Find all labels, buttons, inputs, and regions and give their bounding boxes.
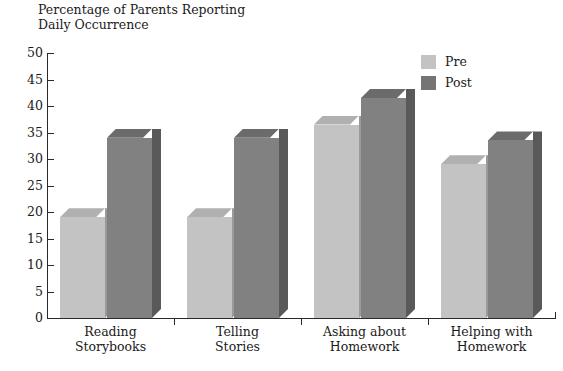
bar-top-face — [441, 155, 486, 164]
bar-top-face — [60, 208, 105, 217]
y-tick — [47, 80, 54, 81]
y-tick-label: 50 — [13, 47, 43, 59]
y-tick-label: 20 — [13, 206, 43, 218]
x-axis-end-tick — [555, 312, 556, 319]
bar-front-face — [107, 138, 152, 318]
bar-chart: Percentage of Parents Reporting Daily Oc… — [0, 0, 563, 371]
y-tick-label: 30 — [13, 153, 43, 165]
y-tick — [47, 186, 54, 187]
y-tick — [47, 265, 54, 266]
bar-post-3 — [488, 131, 533, 318]
y-tick-label: 40 — [13, 100, 43, 112]
bar-pre-1 — [187, 208, 232, 318]
bar-front-face — [234, 138, 279, 318]
bar-top-face — [361, 89, 406, 98]
bar-side-face — [279, 129, 288, 318]
category-label-1: Telling Stories — [174, 324, 301, 354]
bar-side-face — [406, 89, 415, 318]
bar-side-face — [533, 131, 542, 318]
bar-pre-2 — [314, 116, 359, 318]
y-tick-label: 15 — [13, 233, 43, 245]
bar-top-face — [488, 131, 533, 140]
legend-label-post: Post — [445, 73, 472, 92]
bar-post-2 — [361, 89, 406, 318]
bar-top-face — [234, 129, 279, 138]
bar-front-face — [187, 217, 232, 318]
bar-post-1 — [234, 129, 279, 318]
y-tick-label: 45 — [13, 74, 43, 86]
bar-post-0 — [107, 129, 152, 318]
y-tick — [47, 239, 54, 240]
category-label-3: Helping with Homework — [428, 324, 555, 354]
y-tick — [47, 133, 54, 134]
y-tick-label: 25 — [13, 180, 43, 192]
y-tick-label: 10 — [13, 259, 43, 271]
bar-pre-0 — [60, 208, 105, 318]
y-tick — [47, 292, 54, 293]
bar-front-face — [314, 125, 359, 318]
bar-front-face — [441, 164, 486, 318]
bar-top-face — [314, 116, 359, 125]
legend-swatch-pre-icon — [421, 55, 436, 69]
y-tick-label: 5 — [13, 286, 43, 298]
y-tick — [47, 212, 54, 213]
bar-front-face — [361, 98, 406, 318]
plot-area: 05101520253035404550 Reading StorybooksT… — [0, 0, 563, 371]
legend-label-pre: Pre — [445, 52, 467, 71]
bar-pre-3 — [441, 155, 486, 318]
y-tick — [47, 159, 54, 160]
bar-front-face — [60, 217, 105, 318]
bar-side-face — [152, 129, 161, 318]
bar-top-face — [187, 208, 232, 217]
bar-front-face — [488, 140, 533, 318]
y-tick-label: 0 — [13, 312, 43, 324]
y-tick — [47, 53, 54, 54]
bar-top-face — [107, 129, 152, 138]
y-tick — [47, 106, 54, 107]
legend-swatch-post-icon — [421, 76, 436, 90]
category-label-0: Reading Storybooks — [47, 324, 174, 354]
y-tick-label: 35 — [13, 127, 43, 139]
category-label-2: Asking about Homework — [301, 324, 428, 354]
y-tick — [47, 318, 54, 319]
